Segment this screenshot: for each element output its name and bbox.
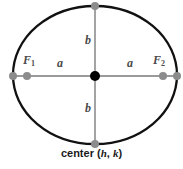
covertex-top-dot <box>91 2 99 10</box>
focus-left-label: F1 <box>23 54 35 66</box>
caption-suffix: ) <box>118 147 122 159</box>
figure-caption: center (h, k) <box>0 148 183 159</box>
ellipse-graphic <box>0 0 183 169</box>
focus-right-dot <box>159 72 167 80</box>
semi-minor-bottom-label: b <box>85 102 91 114</box>
vertex-left-dot <box>9 72 17 80</box>
focus-left-dot <box>23 72 31 80</box>
semi-minor-top-label: b <box>85 34 91 46</box>
semi-major-right-label: a <box>127 57 133 69</box>
caption-prefix: center ( <box>61 147 101 159</box>
focus-right-label: F2 <box>153 54 165 66</box>
center-dot <box>90 71 100 81</box>
vertex-right-dot <box>173 72 181 80</box>
ellipse-diagram: F1 F2 a a b b center (h, k) <box>0 0 183 169</box>
semi-major-left-label: a <box>57 57 63 69</box>
